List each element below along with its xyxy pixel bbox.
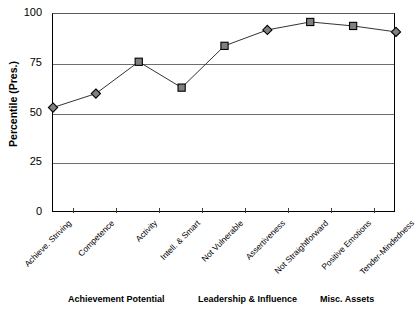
y-tick-label: 50 [12,107,42,118]
x-category-label: Competence [38,218,116,296]
y-tick-label: 75 [12,57,42,68]
x-category-label: Achieve. Striving [0,218,73,296]
x-tick [288,208,289,213]
x-tick [245,208,246,213]
y-tick-label: 25 [12,156,42,167]
group-label: Achievement Potential [68,294,165,304]
x-tick [331,208,332,213]
data-point-marker [350,22,357,29]
data-point-marker [178,84,185,91]
x-category-label: Not Vulnerable [167,218,245,296]
x-tick [374,208,375,213]
data-point-marker [391,27,400,36]
x-tick [159,208,160,213]
data-point-marker [48,103,57,112]
data-point-marker [263,25,272,34]
x-category-label: Activity [81,218,159,296]
data-point-marker [307,18,314,25]
data-series-line [53,14,396,213]
series-polyline [53,22,396,108]
group-label: Leadership & Influence [198,294,297,304]
x-category-label: Assertiveness [210,218,288,296]
y-tick-label: 0 [12,206,42,217]
x-category-label: Positive Emotions [295,218,373,296]
y-tick-label: 100 [12,7,42,18]
x-tick [116,208,117,213]
x-category-label: Intell. & Smart [124,218,202,296]
group-label: Misc. Assets [320,294,374,304]
data-point-marker [135,58,142,65]
x-category-label: Not Straightforward [253,218,331,296]
x-category-label: Tender-Mindedness [338,218,415,296]
data-point-marker [91,89,100,98]
plot-area [52,13,395,212]
x-tick [73,208,74,213]
x-tick [202,208,203,213]
chart-figure: Percentile (Pres.) 0255075100 Achieve. S… [0,0,415,313]
data-point-marker [221,42,228,49]
